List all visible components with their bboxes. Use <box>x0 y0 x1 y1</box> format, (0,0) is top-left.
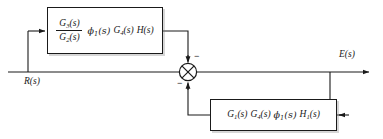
feedback-path-expression: G1(s) G4(s) ϕ1(s) H1(s) <box>227 110 320 120</box>
feedback-term-g1: G1(s) <box>227 110 247 120</box>
transfer-function-fraction: G3(s) G2(s) <box>56 19 82 42</box>
fraction-denominator: G2(s) <box>57 31 81 42</box>
forward-term-phi1: ϕ1(s) <box>87 26 110 36</box>
forward-term-g4: G4(s) <box>113 26 133 36</box>
summing-junction-bottom-sign: − <box>177 79 182 88</box>
block-diagram-canvas: G3(s) G2(s) ϕ1(s) G4(s) H(s) G1(s) G4(s)… <box>0 0 383 139</box>
feedback-term-phi1: ϕ1(s) <box>274 110 297 120</box>
wire-forward-output <box>163 31 188 61</box>
feedback-term-g4: G4(s) <box>250 110 270 120</box>
input-signal-label: R(s) <box>24 77 40 87</box>
forward-path-expression: G3(s) G2(s) ϕ1(s) G4(s) H(s) <box>56 19 153 42</box>
summing-junction-top-sign: − <box>194 52 199 61</box>
fraction-numerator: G3(s) <box>57 19 81 30</box>
feedback-term-h1: H1(s) <box>300 110 320 120</box>
wire-feedback-output <box>188 84 210 115</box>
forward-path-block[interactable]: G3(s) G2(s) ϕ1(s) G4(s) H(s) <box>47 7 163 54</box>
output-signal-label: E(s) <box>339 50 355 60</box>
forward-term-h: H(s) <box>137 26 154 36</box>
feedback-path-block[interactable]: G1(s) G4(s) ϕ1(s) H1(s) <box>210 99 337 131</box>
